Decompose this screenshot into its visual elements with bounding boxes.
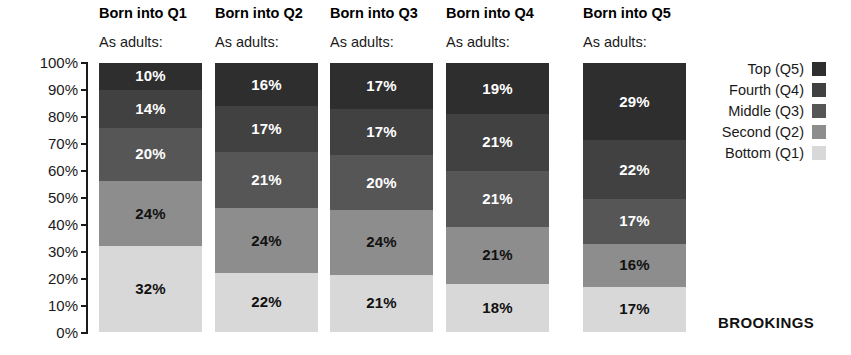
bar-segment: 17%	[583, 287, 686, 332]
bar-segment-label: 21%	[251, 172, 282, 188]
bar-segment-label: 20%	[135, 146, 166, 162]
bar-segment-label: 21%	[482, 134, 513, 150]
bar-segment: 17%	[215, 106, 318, 152]
legend-item[interactable]: Bottom (Q1)	[686, 142, 826, 163]
column-title: Born into Q2	[215, 4, 303, 22]
y-axis-tick-mark	[81, 143, 88, 145]
bar-segment: 20%	[330, 155, 433, 209]
legend: Top (Q5)Fourth (Q4)Middle (Q3)Second (Q2…	[686, 58, 826, 163]
column-subtitle: As adults:	[215, 33, 279, 51]
y-axis-tick-label: 50%	[48, 188, 78, 207]
bar-segment-label: 18%	[482, 300, 513, 316]
legend-item[interactable]: Middle (Q3)	[686, 100, 826, 121]
y-axis-tick-label: 60%	[48, 161, 78, 180]
y-axis: 100%90%80%70%60%50%40%30%20%10%0%	[0, 55, 92, 345]
legend-item-label: Top (Q5)	[748, 60, 804, 78]
bar-segment-label: 17%	[619, 301, 650, 317]
y-axis-tick-mark	[81, 224, 88, 226]
bar-segment-label: 16%	[251, 77, 282, 93]
bar-segment: 24%	[99, 181, 202, 246]
bar-segment: 21%	[446, 114, 549, 170]
legend-item[interactable]: Second (Q2)	[686, 121, 826, 142]
y-axis-tick-mark	[81, 170, 88, 172]
bar-segment: 24%	[330, 210, 433, 275]
bar-segment: 21%	[446, 227, 549, 283]
column-title: Born into Q1	[99, 4, 187, 22]
bar-segment: 29%	[583, 63, 686, 140]
y-axis-tick-mark	[81, 197, 88, 199]
stacked-bar: 29%22%17%16%17%	[583, 63, 686, 332]
bar-segment-label: 17%	[251, 121, 282, 137]
y-axis-tick-label: 80%	[48, 107, 78, 126]
column-subtitle: As adults:	[99, 33, 163, 51]
stacked-bar-chart: 100%90%80%70%60%50%40%30%20%10%0% Born i…	[0, 0, 851, 355]
legend-color-swatch	[812, 146, 826, 160]
bar-segment: 10%	[99, 63, 202, 90]
bar-segment: 21%	[330, 275, 433, 332]
bar-segment-label: 21%	[482, 191, 513, 207]
y-axis-tick-mark	[81, 89, 88, 91]
bar-segment: 22%	[583, 140, 686, 199]
legend-item-label: Second (Q2)	[722, 123, 804, 141]
legend-color-swatch	[812, 83, 826, 97]
bar-segment-label: 24%	[135, 206, 166, 222]
column-subtitle: As adults:	[583, 33, 647, 51]
legend-item-label: Bottom (Q1)	[725, 144, 804, 162]
legend-item-label: Fourth (Q4)	[729, 81, 804, 99]
bar-segment-label: 17%	[619, 213, 650, 229]
column-title: Born into Q4	[446, 4, 534, 22]
bar-segment: 24%	[215, 208, 318, 273]
bar-segment-label: 20%	[366, 175, 397, 191]
y-axis-tick-mark	[81, 278, 88, 280]
legend-color-swatch	[812, 62, 826, 76]
bar-segment-label: 16%	[619, 257, 650, 273]
y-axis-tick-label: 40%	[48, 215, 78, 234]
stacked-bar: 16%17%21%24%22%	[215, 63, 318, 332]
y-axis-tick-label: 100%	[40, 53, 78, 72]
bar-segment-label: 19%	[482, 81, 513, 97]
y-axis-tick-label: 30%	[48, 242, 78, 261]
bar-segment: 17%	[330, 109, 433, 155]
bar-segment-label: 29%	[619, 94, 650, 110]
bar-segment-label: 21%	[366, 295, 397, 311]
bar-segment: 17%	[583, 199, 686, 244]
legend-item[interactable]: Top (Q5)	[686, 58, 826, 79]
legend-color-swatch	[812, 104, 826, 118]
y-axis-tick-mark	[81, 116, 88, 118]
column-title: Born into Q5	[583, 4, 671, 22]
column-title: Born into Q3	[330, 4, 418, 22]
bar-segment: 32%	[99, 246, 202, 332]
legend-color-swatch	[812, 125, 826, 139]
bar-segment-label: 24%	[251, 233, 282, 249]
bar-segment: 22%	[215, 273, 318, 332]
bar-segment-label: 10%	[135, 68, 166, 84]
column-subtitle: As adults:	[330, 33, 394, 51]
bar-segment-label: 17%	[366, 78, 397, 94]
bar-segment-label: 14%	[135, 101, 166, 117]
bar-segment-label: 32%	[135, 281, 166, 297]
brookings-logo: BROOKINGS	[718, 314, 814, 331]
stacked-bar: 19%21%21%21%18%	[446, 63, 549, 332]
bar-segment: 18%	[446, 284, 549, 332]
y-axis-tick-mark	[81, 305, 88, 307]
bar-segment-label: 17%	[366, 124, 397, 140]
bar-segment: 14%	[99, 90, 202, 128]
y-axis-tick-label: 70%	[48, 134, 78, 153]
y-axis-tick-label: 10%	[48, 296, 78, 315]
bar-segment: 19%	[446, 63, 549, 114]
y-axis-tick-mark	[81, 332, 88, 334]
stacked-bar: 17%17%20%24%21%	[330, 63, 433, 332]
bar-segment-label: 24%	[366, 234, 397, 250]
legend-item[interactable]: Fourth (Q4)	[686, 79, 826, 100]
bar-segment: 16%	[215, 63, 318, 106]
y-axis-tick-label: 20%	[48, 269, 78, 288]
bar-segment-label: 22%	[251, 294, 282, 310]
bar-segment: 21%	[446, 171, 549, 227]
stacked-bar: 10%14%20%24%32%	[99, 63, 202, 332]
y-axis-tick-label: 90%	[48, 80, 78, 99]
bar-segment: 21%	[215, 152, 318, 208]
bar-segment: 20%	[99, 128, 202, 182]
y-axis-tick-label: 0%	[56, 323, 78, 342]
y-axis-tick-mark	[81, 62, 88, 64]
bar-segment-label: 22%	[619, 162, 650, 178]
